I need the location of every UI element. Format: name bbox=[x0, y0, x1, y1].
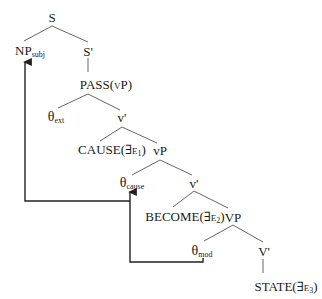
node-np-subj: NPsubj bbox=[15, 44, 45, 59]
edge-vbar2-become bbox=[173, 191, 194, 207]
node-s: S bbox=[48, 11, 55, 24]
node-cause: CAUSE(∃e1) bbox=[78, 143, 146, 158]
edge-vp1-thcause bbox=[132, 160, 160, 175]
edge-vp2-thmod bbox=[204, 225, 233, 241]
edge-s-np bbox=[24, 26, 52, 41]
edge-pass-thext bbox=[58, 94, 88, 108]
node-state: STATE(∃e3) bbox=[254, 280, 317, 295]
node-s-bar: S' bbox=[83, 45, 93, 58]
node-theta-ext: θext bbox=[48, 110, 65, 125]
edge-vbar2-vp2 bbox=[194, 191, 228, 208]
node-v-bar-3: V' bbox=[258, 245, 270, 258]
node-v-bar-1: v' bbox=[118, 111, 127, 124]
node-theta-mod: θmod bbox=[192, 244, 213, 259]
node-v-bar-2: v' bbox=[190, 177, 199, 190]
node-theta-cause: θcause bbox=[120, 176, 144, 191]
edge-vbar1-cause bbox=[100, 127, 122, 141]
edge-vp2-vbar3 bbox=[233, 225, 263, 242]
edge-s-sbar bbox=[52, 26, 88, 42]
node-pass-vp: PASS(vP) bbox=[80, 78, 132, 91]
edge-vp1-vbar2 bbox=[160, 160, 192, 175]
node-become: BECOME(∃e2) bbox=[145, 210, 224, 225]
edge-pass-vbar1 bbox=[88, 94, 120, 110]
node-vp-1: vP bbox=[153, 144, 167, 157]
node-vp-2: VP bbox=[225, 211, 242, 224]
